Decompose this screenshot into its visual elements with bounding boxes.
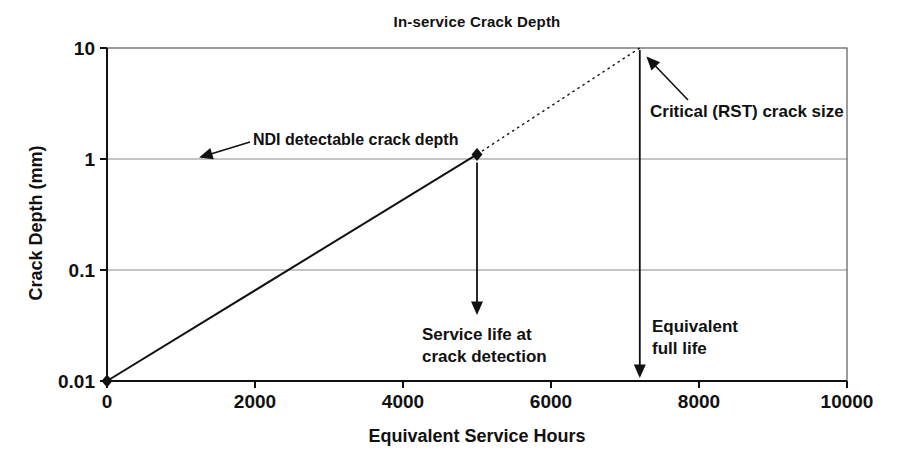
x-tick-label: 8000 bbox=[678, 391, 720, 412]
x-tick-label: 0 bbox=[102, 391, 113, 412]
y-tick-label: 0.1 bbox=[69, 260, 96, 281]
chart-canvas: 0.010.11100200040006000800010000 bbox=[0, 0, 901, 468]
annotation-service-life-at-crack-detection: Service life at crack detection bbox=[422, 324, 547, 368]
x-tick-label: 4000 bbox=[382, 391, 424, 412]
crack-depth-chart: 0.010.11100200040006000800010000 In-serv… bbox=[0, 0, 901, 468]
ndi-leader-arrow bbox=[201, 142, 250, 157]
x-axis-title: Equivalent Service Hours bbox=[107, 426, 847, 447]
y-tick-label: 1 bbox=[84, 149, 95, 170]
annotation-critical-crack-size: Critical (RST) crack size bbox=[650, 102, 844, 122]
annotation-service-life-line1: Service life at bbox=[422, 324, 547, 346]
y-axis-title: Crack Depth (mm) bbox=[26, 73, 48, 373]
x-tick-label: 6000 bbox=[530, 391, 572, 412]
annotation-full-life-line1: Equivalent bbox=[652, 316, 738, 338]
y-tick-label: 10 bbox=[74, 38, 95, 59]
y-tick-label: 0.01 bbox=[58, 371, 95, 392]
annotation-service-life-line2: crack detection bbox=[422, 346, 547, 368]
x-tick-label: 2000 bbox=[234, 391, 276, 412]
annotation-equivalent-full-life: Equivalent full life bbox=[652, 316, 738, 360]
x-tick-label: 10000 bbox=[821, 391, 874, 412]
data-point-diamond bbox=[102, 375, 113, 388]
chart-title: In-service Crack Depth bbox=[107, 13, 847, 30]
annotation-ndi-detectable-crack-depth: NDI detectable crack depth bbox=[253, 131, 458, 149]
critical-crack-leader-arrow bbox=[648, 58, 688, 100]
projected-crack-growth-line bbox=[477, 48, 640, 154]
annotation-full-life-line2: full life bbox=[652, 338, 738, 360]
